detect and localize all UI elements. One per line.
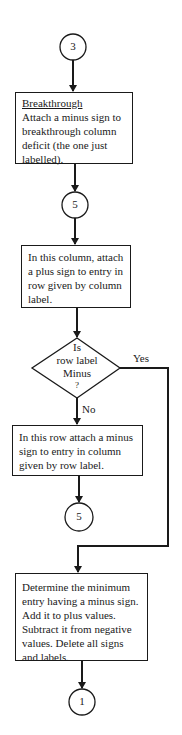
column-box-text: In this column, attach a plus sign to en… bbox=[28, 250, 124, 306]
breakthrough-text: Attach a minus sign to breakthrough colu… bbox=[22, 110, 126, 166]
decision-line-4: ? bbox=[47, 380, 107, 390]
connector-label-3: 3 bbox=[63, 40, 83, 52]
breakthrough-box: Breakthrough Attach a minus sign to brea… bbox=[15, 92, 133, 164]
decision-line-1: Is bbox=[47, 341, 107, 354]
row-box: In this row attach a minus sign to entry… bbox=[12, 425, 143, 476]
decision-text: Is row label Minus ? bbox=[47, 341, 107, 390]
connector-label-5-top: 5 bbox=[65, 198, 85, 210]
final-box: Determine the minimum entry having a min… bbox=[15, 573, 148, 661]
breakthrough-heading: Breakthrough bbox=[22, 96, 126, 110]
connector-label-1: 1 bbox=[72, 695, 92, 707]
decision-line-2: row label bbox=[47, 354, 107, 367]
row-box-text: In this row attach a minus sign to entry… bbox=[19, 430, 136, 472]
yes-label: Yes bbox=[133, 352, 149, 364]
final-box-text: Determine the minimum entry having a min… bbox=[22, 580, 141, 664]
decision-line-3: Minus bbox=[47, 367, 107, 380]
no-label: No bbox=[82, 403, 95, 415]
column-box: In this column, attach a plus sign to en… bbox=[21, 245, 131, 308]
connector-label-5-bottom: 5 bbox=[69, 510, 89, 522]
